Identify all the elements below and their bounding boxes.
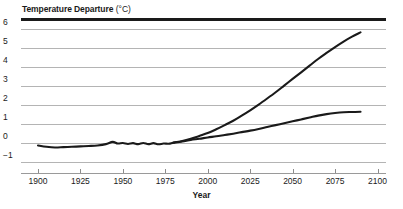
y-axis-tick-label: 1	[3, 113, 19, 122]
series-line-low-projection	[174, 112, 361, 143]
x-axis-tick	[378, 169, 379, 173]
y-axis-tick-label: 0	[3, 132, 19, 141]
x-axis-title: Year	[0, 190, 403, 200]
temperature-departure-chart: Temperature Departure (°C) 6543210−1 190…	[0, 0, 403, 209]
x-axis-tick	[165, 169, 166, 173]
x-axis-tick-label: 1975	[145, 176, 185, 186]
y-axis-tick-label: 6	[3, 18, 19, 27]
chart-title-main: Temperature Departure	[22, 4, 113, 14]
chart-title-unit: (°C)	[116, 4, 131, 14]
plot-area	[21, 21, 386, 173]
x-axis-tick-label: 2075	[315, 176, 355, 186]
series-lines	[21, 21, 386, 173]
x-axis-tick-label: 1900	[18, 176, 58, 186]
x-axis-tick	[123, 169, 124, 173]
y-axis-tick-label: 3	[3, 75, 19, 84]
x-axis-tick	[38, 169, 39, 173]
x-axis-tick-label: 2100	[358, 176, 398, 186]
chart-title: Temperature Departure (°C)	[22, 4, 131, 14]
x-axis-tick	[80, 169, 81, 173]
x-axis-tick-label: 1925	[60, 176, 100, 186]
y-axis-tick-label: 5	[3, 37, 19, 46]
x-axis-tick-label: 1950	[103, 176, 143, 186]
x-axis-tick-label: 2050	[273, 176, 313, 186]
series-line-observed-and-high-projection	[38, 32, 361, 147]
x-axis-tick-label: 2000	[188, 176, 228, 186]
x-axis-line	[21, 173, 386, 174]
x-axis-tick	[293, 169, 294, 173]
y-axis-tick-label: 2	[3, 94, 19, 103]
x-axis-tick	[335, 169, 336, 173]
y-axis-tick-label: 4	[3, 56, 19, 65]
x-axis-tick-label: 2025	[230, 176, 270, 186]
y-axis-tick-label: −1	[3, 151, 19, 160]
x-axis-tick	[250, 169, 251, 173]
x-axis-tick	[208, 169, 209, 173]
